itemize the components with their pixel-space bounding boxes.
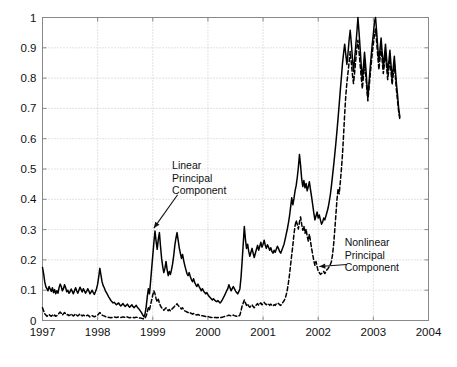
x-axis-label-1997: 1997 — [30, 326, 56, 338]
annotation-text-line: Component — [345, 261, 399, 273]
y-axis-label-1: 1 — [30, 12, 36, 24]
annotation-text-line: Principal — [345, 249, 385, 261]
y-axis-label-0_4: 0.4 — [21, 193, 38, 205]
y-axis-label-0_3: 0.3 — [21, 224, 37, 236]
chart-background — [0, 0, 457, 367]
x-axis-label-2004: 2004 — [416, 326, 442, 338]
annotation-text-line: Nonlinear — [345, 236, 390, 248]
x-axis-label-1999: 1999 — [140, 326, 166, 338]
pca-timeseries-chart: 00.10.20.30.40.50.60.70.80.91 1997199819… — [0, 0, 457, 367]
y-axis-label-0_7: 0.7 — [21, 102, 37, 114]
x-axis-label-2001: 2001 — [250, 326, 276, 338]
y-axis-label-0_1: 0.1 — [21, 284, 37, 296]
y-axis-label-0_2: 0.2 — [21, 254, 37, 266]
x-axis-label-2003: 2003 — [361, 326, 387, 338]
y-axis-label-0_6: 0.6 — [21, 133, 37, 145]
x-axis-label-2000: 2000 — [195, 326, 221, 338]
annotation-text-line: Linear — [172, 159, 202, 171]
y-axis-label-0_9: 0.9 — [21, 42, 37, 54]
x-axis-label-1998: 1998 — [85, 326, 111, 338]
figure-container: 00.10.20.30.40.50.60.70.80.91 1997199819… — [0, 0, 457, 367]
x-axis-label-2002: 2002 — [305, 326, 331, 338]
y-axis-label-0_8: 0.8 — [21, 72, 37, 84]
annotation-text-line: Principal — [172, 172, 212, 184]
y-axis-label-0_5: 0.5 — [21, 163, 37, 175]
annotation-text-line: Component — [172, 184, 226, 196]
